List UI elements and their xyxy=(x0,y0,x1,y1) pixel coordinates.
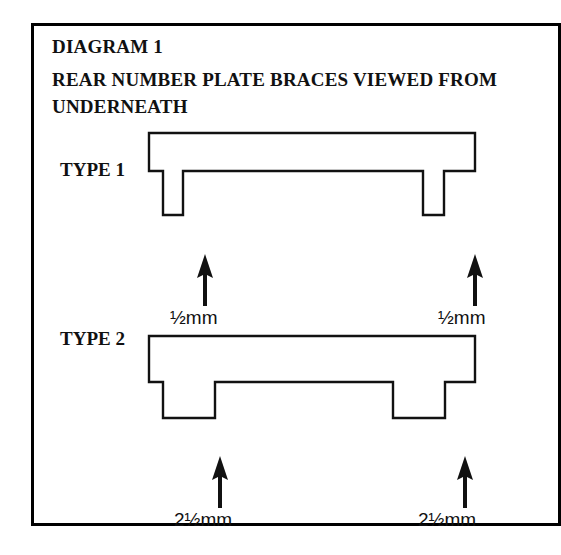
measure-label-type-2-left: 2½mm xyxy=(174,509,232,531)
type-2-brace-shape xyxy=(34,329,534,459)
arrow-up-icon-type-1-right xyxy=(464,254,486,306)
diagram-frame: DIAGRAM 1 REAR NUMBER PLATE BRACES VIEWE… xyxy=(31,23,561,526)
arrow-up-icon-type-2-left xyxy=(209,456,231,508)
arrow-up-icon-type-1-left xyxy=(194,254,216,306)
diagram-title: DIAGRAM 1 xyxy=(52,36,163,58)
diagram-subtitle-line-2: UNDERNEATH xyxy=(52,96,188,118)
arrow-up-icon-type-2-right xyxy=(454,456,476,508)
type-1-brace-shape xyxy=(34,126,534,256)
measure-label-type-1-right: ½mm xyxy=(438,307,486,329)
diagram-subtitle-line-1: REAR NUMBER PLATE BRACES VIEWED FROM xyxy=(52,69,497,91)
measure-label-type-1-left: ½mm xyxy=(170,307,218,329)
measure-label-type-2-right: 2½mm xyxy=(418,509,476,531)
